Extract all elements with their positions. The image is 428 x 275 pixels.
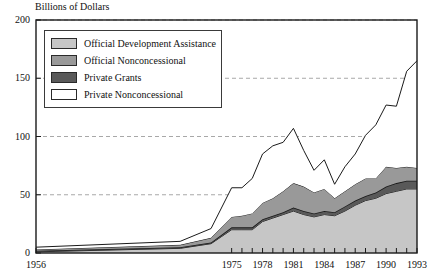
legend-item-label: Private Grants [84, 72, 142, 83]
legend-item: Official Development Assistance [51, 35, 215, 52]
y-axis-tick-label: 200 [2, 14, 30, 25]
legend-item-label: Private Nonconcessional [84, 89, 183, 100]
chart-legend: Official Development AssistanceOfficial … [44, 30, 222, 108]
y-axis-tick-label: 150 [2, 72, 30, 83]
legend-item-label: Official Nonconcessional [84, 55, 186, 66]
legend-item: Private Grants [51, 69, 215, 86]
legend-swatch-icon [51, 38, 77, 49]
y-axis-tick-label: 50 [2, 189, 30, 200]
legend-item: Private Nonconcessional [51, 86, 215, 103]
y-axis-tick-label: 0 [2, 247, 30, 258]
x-axis-tick-label: 1993 [397, 259, 428, 270]
chart-container: Billions of Dollars 050100150200 1956197… [0, 0, 428, 275]
legend-swatch-icon [51, 89, 77, 100]
legend-item-label: Official Development Assistance [84, 38, 216, 49]
x-axis-tick-label: 1956 [16, 259, 56, 270]
legend-swatch-icon [51, 72, 77, 83]
legend-swatch-icon [51, 55, 77, 66]
legend-item: Official Nonconcessional [51, 52, 215, 69]
y-axis-tick-label: 100 [2, 131, 30, 142]
